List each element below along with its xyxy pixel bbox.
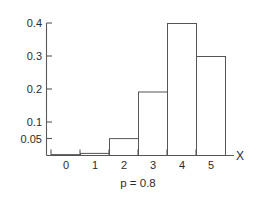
y-tick-label-0.3: 0.3	[27, 50, 42, 62]
bar-x-0	[52, 155, 81, 156]
x-tick-label-3: 3	[150, 159, 156, 171]
x-tick-label-2: 2	[121, 159, 127, 171]
binomial-histogram-figure: 0.4 0.3 0.2 0.1 0.05 0 1 2 3 4 5 X	[0, 0, 256, 197]
bar-x-2	[110, 139, 139, 156]
x-axis-title: X	[236, 149, 244, 163]
bar-x-4	[168, 24, 197, 156]
bar-x-1	[81, 153, 110, 155]
y-tick-label-0.1: 0.1	[27, 116, 42, 128]
plot-area: 0.4 0.3 0.2 0.1 0.05 0 1 2 3 4 5 X	[0, 0, 256, 197]
y-tick-label-0.05: 0.05	[21, 133, 42, 145]
x-tick-label-5: 5	[208, 159, 214, 171]
x-tick-label-1: 1	[92, 159, 98, 171]
x-tick-label-4: 4	[179, 159, 185, 171]
bar-x-5	[197, 57, 226, 156]
x-tick-label-0: 0	[63, 159, 69, 171]
bar-x-3	[139, 92, 168, 156]
chart-caption: p = 0.8	[120, 177, 156, 189]
y-tick-label-0.4: 0.4	[27, 17, 42, 29]
y-tick-label-0.2: 0.2	[27, 83, 42, 95]
